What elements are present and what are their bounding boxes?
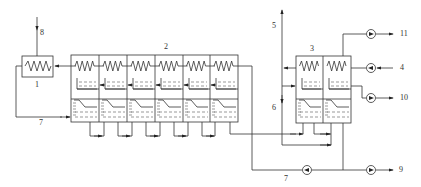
label-3: 3: [310, 45, 314, 53]
label-11: 11: [400, 30, 408, 38]
label-4: 4: [400, 64, 404, 72]
label-10: 10: [400, 94, 408, 102]
block-2-internals: [71, 61, 238, 117]
label-8: 8: [40, 29, 44, 37]
stream-10: [351, 86, 393, 103]
transfer-line: [230, 66, 331, 170]
block3-coil-return: [282, 68, 296, 86]
heat-exchanger-1: [22, 56, 53, 77]
drain-brackets: [90, 122, 215, 136]
label-7-bottom: 7: [284, 175, 288, 183]
block-3-internals: [296, 61, 351, 117]
stream-4: [351, 64, 393, 73]
label-5: 5: [272, 22, 276, 30]
label-9: 9: [399, 166, 403, 174]
stream-7-recycle: [16, 66, 70, 117]
label-2: 2: [164, 43, 168, 51]
diagram-canvas: [0, 0, 421, 187]
stream-11: [343, 30, 393, 57]
label-7-left: 7: [39, 119, 43, 127]
process-flow-diagram: 8 1 7 2 3 5 6 11 4 10 9 7: [0, 0, 421, 187]
label-1: 1: [35, 81, 39, 89]
label-6: 6: [272, 104, 276, 112]
stream-9: [303, 123, 394, 175]
